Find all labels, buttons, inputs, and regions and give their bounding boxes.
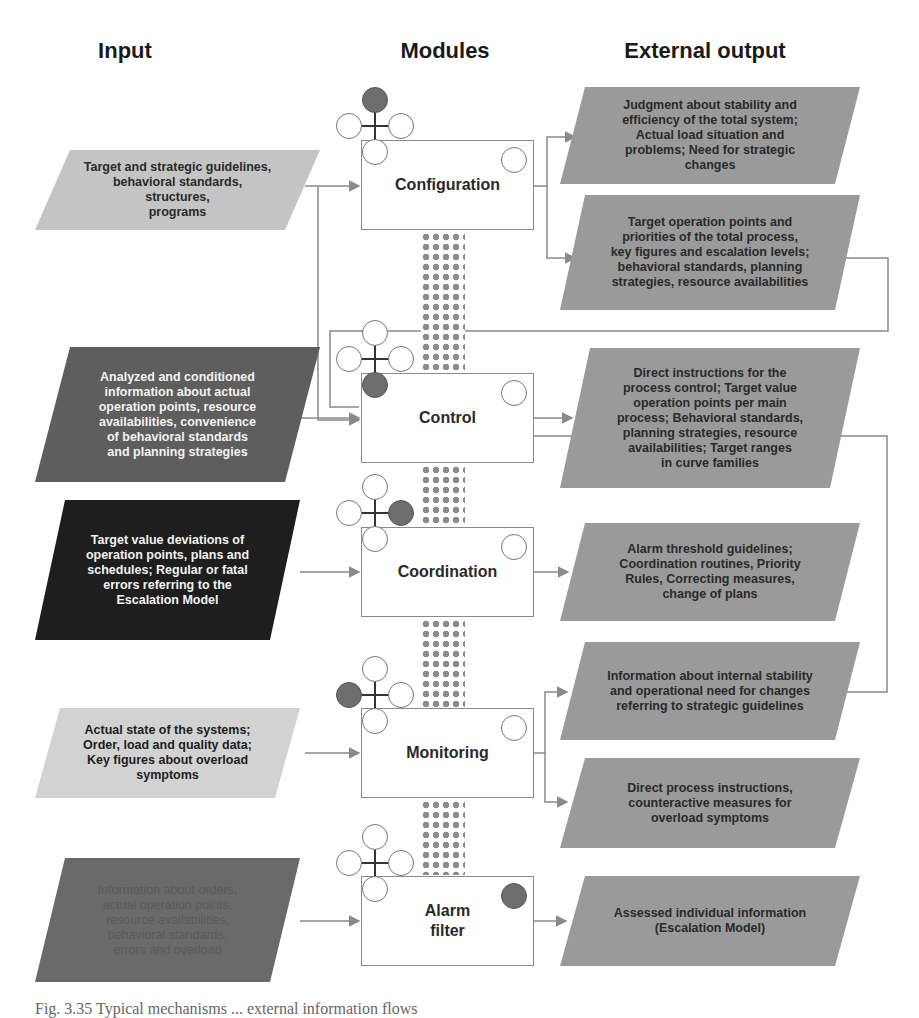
output-box-6: Direct process instructions, counteracti… bbox=[560, 758, 860, 848]
output-box-1: Judgment about stability and efficiency … bbox=[560, 87, 860, 184]
circle-cluster-icon bbox=[336, 474, 414, 552]
output-text: Information about internal stability and… bbox=[560, 642, 860, 740]
output-text: Alarm threshold guidelines; Coordination… bbox=[560, 523, 860, 621]
dotted-band bbox=[421, 465, 465, 527]
circle-cluster-icon bbox=[336, 824, 414, 902]
figure-caption: Fig. 3.35 Typical mechanisms ... externa… bbox=[35, 1000, 418, 1018]
output-text: Assessed individual information (Escalat… bbox=[560, 876, 860, 966]
input-text: Analyzed and conditioned information abo… bbox=[35, 347, 320, 482]
output-box-5: Information about internal stability and… bbox=[560, 642, 860, 740]
input-text: Target and strategic guidelines, behavio… bbox=[35, 150, 320, 230]
output-text: Judgment about stability and efficiency … bbox=[560, 87, 860, 184]
circle-cluster-icon bbox=[336, 320, 414, 398]
input-box-2: Analyzed and conditioned information abo… bbox=[35, 347, 320, 482]
input-box-5: Information about orders, actual operati… bbox=[35, 858, 300, 982]
output-text: Direct instructions for the process cont… bbox=[560, 348, 860, 488]
output-text: Target operation points and priorities o… bbox=[560, 195, 860, 310]
output-box-3: Direct instructions for the process cont… bbox=[560, 348, 860, 488]
input-text: Information about orders, actual operati… bbox=[35, 858, 300, 982]
output-text: Direct process instructions, counteracti… bbox=[560, 758, 860, 848]
output-box-2: Target operation points and priorities o… bbox=[560, 195, 860, 310]
dotted-band bbox=[421, 619, 465, 708]
input-text: Target value deviations of operation poi… bbox=[35, 500, 300, 640]
output-box-7: Assessed individual information (Escalat… bbox=[560, 876, 860, 966]
dotted-band bbox=[421, 800, 465, 875]
circle-cluster-icon bbox=[336, 87, 414, 165]
dotted-band bbox=[421, 232, 465, 372]
input-box-1: Target and strategic guidelines, behavio… bbox=[35, 150, 320, 230]
input-box-3: Target value deviations of operation poi… bbox=[35, 500, 300, 640]
circle-cluster-icon bbox=[336, 656, 414, 734]
output-box-4: Alarm threshold guidelines; Coordination… bbox=[560, 523, 860, 621]
input-text: Actual state of the systems; Order, load… bbox=[35, 708, 300, 798]
input-box-4: Actual state of the systems; Order, load… bbox=[35, 708, 300, 798]
